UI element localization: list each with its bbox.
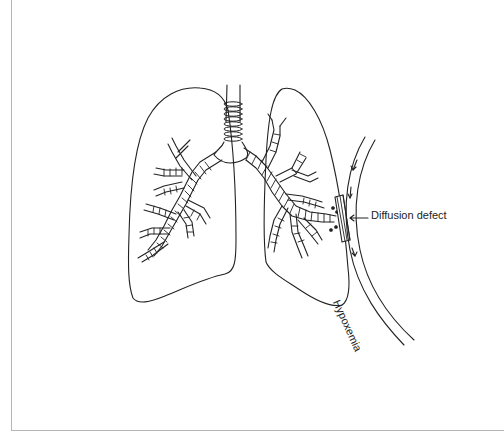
diffusion-defect-label: Diffusion defect (371, 209, 447, 221)
lungs-illustration (0, 0, 504, 445)
left-lung-outline (128, 88, 236, 302)
diffusion-defect-arrow (350, 215, 368, 221)
blood-vessel (346, 137, 414, 345)
bronchial-tree-left (138, 138, 222, 262)
bronchial-tree-right (244, 114, 341, 258)
trachea (214, 85, 248, 163)
